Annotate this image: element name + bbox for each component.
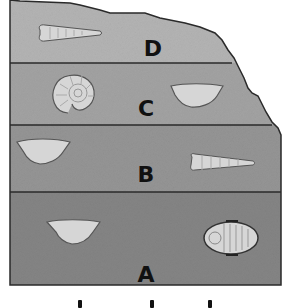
layer-label-d: D: [144, 38, 162, 60]
layer-label-b: B: [138, 164, 155, 186]
clipped-bottom-text: [0, 296, 290, 308]
clipped-glyph: [150, 300, 154, 308]
clipped-glyph: [208, 300, 212, 308]
rock-layers-diagram: D C B A: [0, 0, 290, 308]
ammonite-icon: [53, 75, 94, 113]
layer-label-c: C: [138, 98, 154, 120]
clipped-glyph: [78, 300, 82, 308]
trilobite-icon: [204, 221, 258, 255]
layer-label-a: A: [137, 264, 154, 286]
